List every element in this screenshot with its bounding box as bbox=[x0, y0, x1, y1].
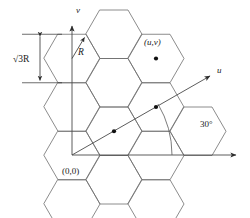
hex-cell bbox=[86, 156, 142, 205]
hex-cell bbox=[170, 107, 226, 156]
cell-coordinate-label: (u,v) bbox=[144, 37, 161, 47]
figure-svg: √3R v u R (u,v) (0,0) bbox=[0, 0, 250, 218]
v-axis-label: v bbox=[76, 5, 80, 15]
cell-center-dot bbox=[154, 105, 158, 109]
spacing-label-group: √3R bbox=[13, 54, 30, 64]
hex-cell bbox=[86, 59, 142, 108]
u-axis bbox=[72, 76, 210, 155]
angle-arc-group bbox=[158, 104, 172, 155]
spacing-label: √3R bbox=[13, 54, 30, 64]
angle-label: 30° bbox=[200, 119, 213, 129]
origin-label: (0,0) bbox=[62, 166, 79, 176]
cell-center-dot bbox=[112, 129, 116, 133]
hex-cell bbox=[128, 180, 184, 218]
hex-cell bbox=[44, 180, 100, 218]
hex-grid bbox=[44, 10, 226, 218]
angle-arc bbox=[158, 104, 172, 155]
hex-cell bbox=[128, 131, 184, 180]
radius-label: R bbox=[77, 47, 84, 57]
hex-cell bbox=[86, 10, 142, 59]
hexagon-grid-diagram: √3R v u R (u,v) (0,0) bbox=[0, 0, 250, 218]
u-axis-label: u bbox=[217, 65, 222, 75]
cell-center-dot bbox=[154, 56, 158, 60]
